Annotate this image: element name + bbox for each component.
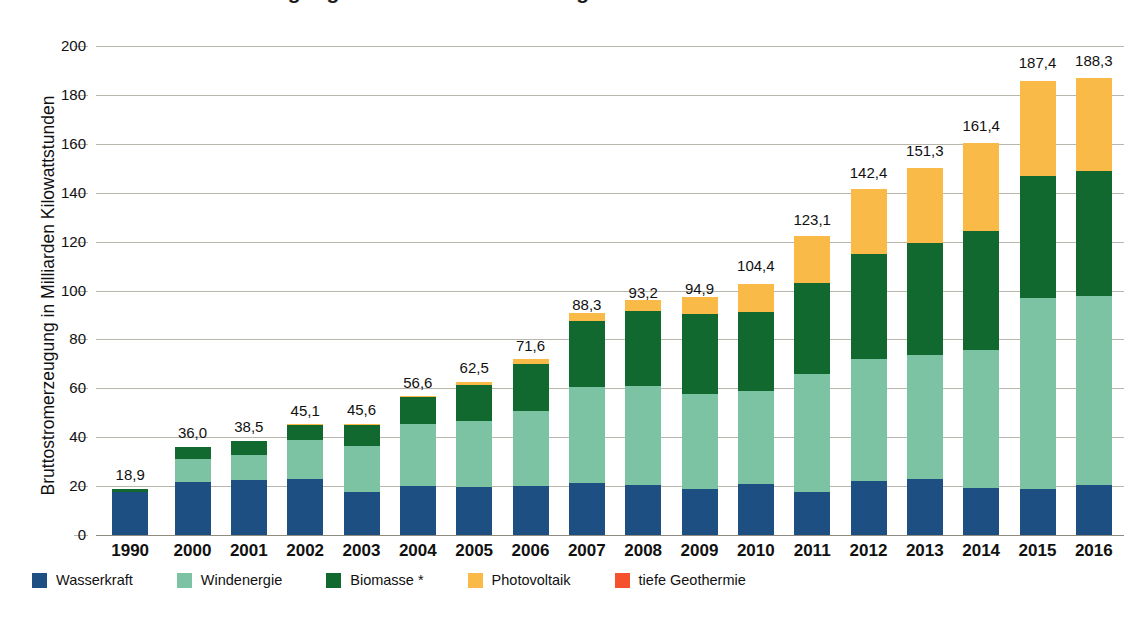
bar-segment xyxy=(738,391,774,483)
bar-group[interactable]: 94,9 xyxy=(682,297,718,535)
bar-segment xyxy=(1020,298,1056,488)
bar-segment xyxy=(1020,176,1056,299)
x-tick-label: 2016 xyxy=(1075,541,1113,561)
bar-segment xyxy=(682,394,718,488)
legend-item[interactable]: tiefe Geothermie xyxy=(615,572,746,588)
bar-value-label: 56,6 xyxy=(403,374,432,391)
bar-segment xyxy=(456,385,492,421)
chart-legend: WasserkraftWindenergieBiomasse *Photovol… xyxy=(32,569,790,591)
bar-group[interactable]: 45,6 xyxy=(344,424,380,535)
bar-segment xyxy=(963,231,999,350)
bar-segment xyxy=(175,459,211,482)
bar-segment xyxy=(175,482,211,535)
bar-group[interactable]: 62,5 xyxy=(456,382,492,535)
legend-swatch-icon xyxy=(468,573,483,588)
y-tick-label: 20 xyxy=(26,477,86,494)
bar-segment xyxy=(682,314,718,395)
bar-segment xyxy=(400,486,436,535)
bar-segment xyxy=(625,300,661,311)
bar-segment xyxy=(963,350,999,487)
bar-group[interactable]: 161,4 xyxy=(963,143,999,535)
y-tick-label: 160 xyxy=(26,135,86,152)
legend-item[interactable]: Windenergie xyxy=(177,572,282,588)
bar-segment xyxy=(794,236,830,284)
x-tick-label: 2006 xyxy=(512,541,550,561)
bar-segment xyxy=(794,492,830,535)
legend-item[interactable]: Biomasse * xyxy=(326,572,423,588)
bar-value-label: 62,5 xyxy=(460,359,489,376)
bar-segment xyxy=(569,483,605,535)
x-tick-label: 2001 xyxy=(230,541,268,561)
bar-segment xyxy=(851,189,887,254)
legend-item-label: Photovoltaik xyxy=(492,572,571,588)
bar-value-label: 36,0 xyxy=(178,424,207,441)
bar-group[interactable]: 38,5 xyxy=(231,441,267,535)
legend-item[interactable]: Wasserkraft xyxy=(32,572,133,588)
bar-segment xyxy=(112,492,148,535)
page-title: Bruttostromerzeugung aus erneuerbaren En… xyxy=(110,0,778,4)
bar-segment xyxy=(287,440,323,479)
bar-group[interactable]: 56,6 xyxy=(400,396,436,535)
bar-group[interactable]: 151,3 xyxy=(907,168,943,535)
y-tick-label: 0 xyxy=(26,526,86,543)
bar-value-label: 123,1 xyxy=(793,211,831,228)
bar-segment xyxy=(287,479,323,535)
bar-group[interactable]: 71,6 xyxy=(513,359,549,536)
bar-segment xyxy=(344,425,380,447)
x-tick-label: 2011 xyxy=(794,541,831,561)
bar-value-label: 45,6 xyxy=(347,401,376,418)
bar-segment xyxy=(682,297,718,313)
bar-segment xyxy=(963,488,999,535)
legend-swatch-icon xyxy=(177,573,192,588)
bar-segment xyxy=(344,446,380,492)
bar-value-label: 94,9 xyxy=(685,280,714,297)
bar-segment xyxy=(738,284,774,313)
bar-value-label: 93,2 xyxy=(629,284,658,301)
bar-segment xyxy=(1020,489,1056,535)
bar-group[interactable]: 104,4 xyxy=(738,284,774,535)
x-tick-label: 2004 xyxy=(399,541,437,561)
bar-group[interactable]: 45,1 xyxy=(287,424,323,535)
bar-segment xyxy=(344,492,380,535)
y-tick-label: 120 xyxy=(26,233,86,250)
bar-segment xyxy=(400,424,436,486)
bar-value-label: 188,3 xyxy=(1075,52,1113,69)
bar-segment xyxy=(569,321,605,387)
legend-swatch-icon xyxy=(615,573,630,588)
bar-segment xyxy=(569,313,605,321)
bar-segment xyxy=(907,355,943,479)
bar-group[interactable]: 36,0 xyxy=(175,447,211,535)
bar-group[interactable]: 188,3 xyxy=(1076,78,1112,535)
bar-segment xyxy=(231,455,267,481)
bar-series-container: 18,936,038,545,145,656,662,571,688,393,2… xyxy=(96,46,1124,535)
bar-segment xyxy=(907,479,943,535)
bar-segment xyxy=(682,489,718,535)
x-tick-label: 2005 xyxy=(455,541,493,561)
bar-group[interactable]: 187,4 xyxy=(1020,81,1056,535)
bar-group[interactable]: 18,9 xyxy=(112,489,148,535)
bar-group[interactable]: 88,3 xyxy=(569,313,605,535)
bar-segment xyxy=(851,359,887,481)
bar-value-label: 104,4 xyxy=(737,257,775,274)
bar-segment xyxy=(625,485,661,535)
y-tick-label: 140 xyxy=(26,184,86,201)
x-axis-labels: 1990200020012002200320042005200620072008… xyxy=(96,541,1124,567)
y-tick-label: 100 xyxy=(26,282,86,299)
bar-group[interactable]: 123,1 xyxy=(794,236,830,535)
bar-segment xyxy=(851,254,887,359)
x-tick-label: 2009 xyxy=(681,541,719,561)
bar-group[interactable]: 93,2 xyxy=(625,300,661,535)
bar-segment xyxy=(231,480,267,535)
legend-item[interactable]: Photovoltaik xyxy=(468,572,571,588)
bar-segment xyxy=(851,481,887,535)
bar-value-label: 88,3 xyxy=(572,296,601,313)
bar-value-label: 71,6 xyxy=(516,337,545,354)
bar-segment xyxy=(456,487,492,535)
x-tick-label: 2000 xyxy=(174,541,212,561)
bar-segment xyxy=(513,411,549,486)
x-tick-label: 2008 xyxy=(624,541,662,561)
bar-segment xyxy=(1076,485,1112,535)
bar-value-label: 161,4 xyxy=(962,117,1000,134)
bar-group[interactable]: 142,4 xyxy=(851,189,887,535)
x-tick-label: 2014 xyxy=(962,541,1000,561)
